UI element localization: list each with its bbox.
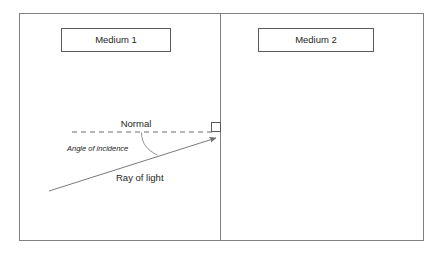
angle-of-incidence-label: Angle of incidence (67, 145, 128, 153)
ray-of-light-label: Ray of light (116, 173, 164, 183)
medium-2-label: Medium 2 (258, 35, 374, 45)
medium-1-label: Medium 1 (61, 35, 171, 45)
right-angle-marker (212, 123, 221, 132)
refraction-diagram: Medium 1 Medium 2 Normal Angle of incide… (0, 0, 443, 257)
normal-label: Normal (108, 119, 164, 129)
